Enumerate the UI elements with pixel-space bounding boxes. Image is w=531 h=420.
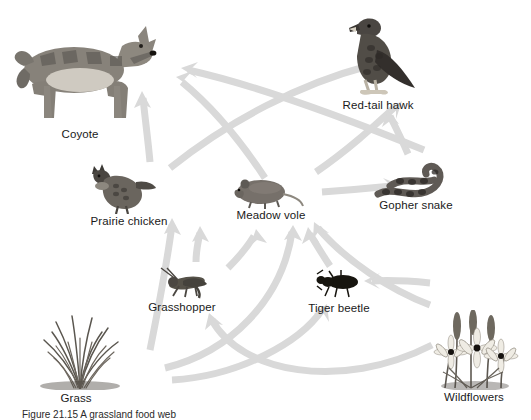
link-grasshopper-meadow-vole	[228, 236, 254, 268]
food-web-figure: Coyote	[0, 0, 531, 420]
figure-caption: Figure 21.15 A grassland food web	[22, 409, 522, 420]
link-prairie-chicken-coyote	[143, 98, 150, 162]
link-meadow-vole-gopher-snake	[322, 186, 392, 192]
link-wildflowers-meadow-vole	[318, 228, 430, 305]
food-web-arrows	[0, 0, 531, 420]
link-grass-prairie-chicken	[150, 225, 172, 350]
